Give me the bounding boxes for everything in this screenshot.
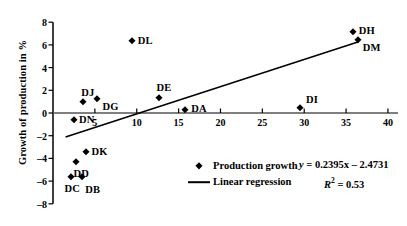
y-axis-tick-label: 0 — [17, 108, 47, 119]
data-point-label: DK — [91, 146, 107, 157]
legend-label-linear-regression: Linear regression — [213, 176, 291, 187]
legend-marker-linear-regression — [188, 181, 210, 183]
data-point-label: DC — [64, 183, 80, 194]
y-axis-tick-label: –8 — [17, 198, 47, 209]
y-axis-tick-label: 8 — [17, 17, 47, 28]
data-point-label: DH — [359, 25, 375, 36]
y-axis-tick-label: 4 — [17, 62, 47, 73]
data-point-label: DI — [306, 94, 318, 105]
r-squared-annotation: R2 = 0.53 — [324, 176, 364, 190]
data-point-label: DE — [157, 82, 172, 93]
scatter-chart: Growth of production in % –8–6–4–202468 … — [0, 0, 407, 226]
r-squared-symbol: R — [324, 179, 331, 190]
data-point-label: DJ — [81, 87, 94, 98]
data-point-label: DB — [85, 184, 100, 195]
data-point-label: DG — [102, 101, 118, 112]
y-axis-tick-label: 2 — [17, 85, 47, 96]
y-axis-tick-label: –6 — [17, 176, 47, 187]
data-point-label: DD — [73, 168, 89, 179]
data-point-label: DM — [363, 42, 381, 53]
regression-line-path — [66, 42, 359, 137]
r-squared-value: = 0.53 — [335, 179, 365, 190]
legend-label-production-growth: Production growth — [213, 160, 298, 171]
equation-body: = 0.2395x – 2.4731 — [304, 159, 389, 170]
x-axis-tick-label: 40 — [383, 117, 393, 128]
x-axis-tick-label: 35 — [341, 117, 351, 128]
data-point-label: DA — [191, 103, 207, 114]
data-point-label: DL — [138, 35, 153, 46]
x-axis-tick-label: 30 — [299, 117, 309, 128]
y-axis-tick-label: –4 — [17, 153, 47, 164]
regression-equation: y = 0.2395x – 2.4731 — [299, 159, 388, 170]
data-point-label: DN — [79, 114, 95, 125]
x-axis-tick-label: 25 — [257, 117, 267, 128]
regression-line — [66, 42, 359, 137]
y-axis-tick-label: –2 — [17, 130, 47, 141]
y-axis-tick-label: 6 — [17, 39, 47, 50]
x-axis-tick-label: 20 — [215, 117, 225, 128]
x-axis-tick-label: 10 — [132, 117, 142, 128]
x-axis-tick-label: 15 — [174, 117, 184, 128]
